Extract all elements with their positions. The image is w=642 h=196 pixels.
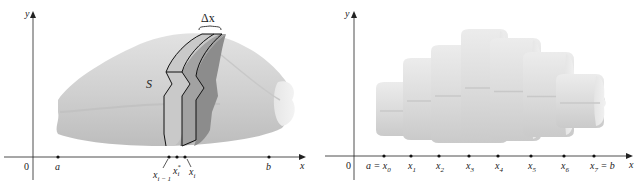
y-axis-arrow-icon [30, 11, 36, 18]
slab-end-face [594, 76, 606, 126]
point-x-i-minus-1 [167, 155, 170, 158]
label-x-i-minus-1: xi − 1 [152, 169, 171, 183]
slab-group [376, 29, 606, 143]
x-axis-point-label: a = x0 [366, 160, 391, 174]
point-x-i-star [175, 155, 178, 158]
delta-x-label: Δx [201, 11, 215, 25]
origin-label: 0 [346, 160, 351, 171]
pointer-x-i-minus-1 [163, 159, 168, 168]
x-axis-points: a = x0x1x2x3x4x5x6x7 = b [366, 154, 615, 174]
right-figure-slab-approximation: y x 0 a = x0x1x2x3x4x5x6x7 = b [321, 0, 642, 196]
x-axis-label: x [628, 159, 634, 170]
x-axis-point-label: x6 [560, 160, 569, 174]
label-b: b [266, 161, 271, 172]
x-axis-point-label: x2 [435, 160, 444, 174]
solid-label: S [146, 77, 152, 91]
x-axis-point-label: x3 [465, 160, 474, 174]
label-x-i: xi [188, 166, 195, 180]
origin-label: 0 [24, 161, 29, 172]
left-figure-solid-with-slice: Δx S y x 0 a b xi − 1 x*i xi [0, 0, 321, 196]
y-axis-label: y [24, 8, 30, 19]
x-axis-label: x [299, 160, 305, 171]
label-a: a [55, 161, 60, 172]
x-axis-point [592, 154, 595, 157]
point-x-i [183, 155, 186, 158]
solid-end-cap [274, 81, 295, 126]
y-axis-arrow-icon [351, 11, 357, 18]
x-axis-point [382, 154, 385, 157]
x-axis-point [562, 154, 565, 157]
delta-x-brace [199, 26, 221, 30]
x-axis-point-label: x5 [527, 160, 536, 174]
y-axis-label: y [344, 8, 350, 19]
x-axis-point [496, 154, 499, 157]
point-a [56, 155, 59, 158]
label-x-i-star: x*i [172, 164, 180, 178]
left-figure-svg: Δx S y x 0 a b xi − 1 x*i xi [0, 0, 321, 196]
x-axis-point-label: x4 [494, 160, 503, 174]
x-axis-point-label: x7 = b [589, 160, 615, 174]
x-axis-point [467, 154, 470, 157]
x-axis-point [409, 154, 412, 157]
point-b [267, 155, 270, 158]
right-figure-svg: y x 0 a = x0x1x2x3x4x5x6x7 = b [321, 0, 642, 196]
x-axis-point [529, 154, 532, 157]
x-axis-point-label: x1 [407, 160, 416, 174]
x-axis-point [437, 154, 440, 157]
